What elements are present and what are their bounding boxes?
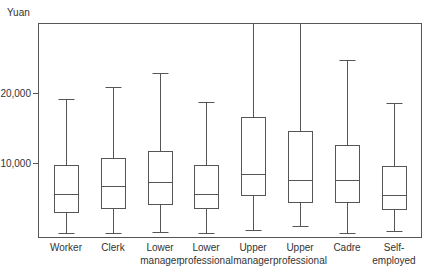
x-category-label: Clerk (101, 242, 125, 253)
iqr-box (242, 118, 266, 196)
iqr-box (149, 152, 173, 205)
iqr-box (102, 159, 126, 209)
y-tick-label: 10,000 (0, 158, 31, 169)
x-category-label: Worker (50, 242, 83, 253)
box-clerk (102, 88, 126, 234)
x-category-label: Upper (239, 242, 267, 253)
box-lower-professional (195, 103, 219, 234)
x-category-label: professional (273, 255, 327, 266)
x-category-label: Lower (192, 242, 220, 253)
x-category-label: Self- (384, 242, 405, 253)
plot-frame (39, 24, 422, 238)
box-cadre (336, 61, 360, 234)
box-lower-manager (149, 74, 173, 233)
box-series (55, 24, 407, 234)
x-category-label: professional (179, 255, 233, 266)
x-category-label: manager (140, 255, 180, 266)
iqr-box (195, 166, 219, 209)
x-category-label: employed (372, 255, 415, 266)
iqr-box (336, 146, 360, 203)
iqr-box (289, 132, 313, 203)
x-axis-labels: WorkerClerkLowermanagerLowerprofessional… (50, 242, 416, 266)
box-upper-manager (242, 24, 266, 231)
x-category-label: Upper (286, 242, 314, 253)
box-self-employed (383, 104, 407, 232)
box-plot-chart: Yuan 10,00020,000 WorkerClerkLowermanage… (0, 0, 427, 273)
y-tick-label: 20,000 (0, 88, 31, 99)
box-worker (55, 100, 79, 234)
iqr-box (55, 166, 79, 213)
y-axis-ticks: 10,00020,000 (0, 88, 38, 169)
x-category-label: Lower (146, 242, 174, 253)
iqr-box (383, 167, 407, 210)
y-axis-title: Yuan (7, 7, 30, 18)
x-category-label: Cadre (333, 242, 361, 253)
x-category-label: manager (233, 255, 273, 266)
box-upper-professional (289, 24, 313, 227)
